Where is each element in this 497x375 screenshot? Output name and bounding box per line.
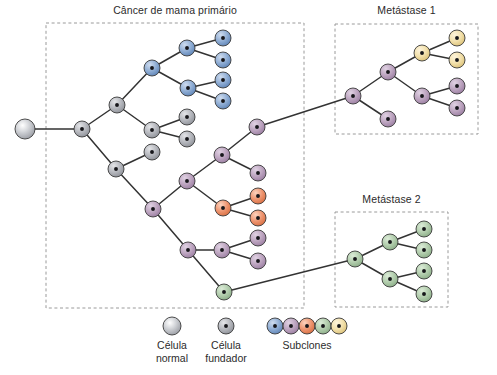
- nucleus-dot: [273, 324, 277, 328]
- nucleus-dot: [150, 150, 154, 154]
- cell-node-blue-b7: [215, 93, 231, 109]
- legend-swatch-founder-cell: [218, 318, 234, 334]
- nucleus-dot: [222, 290, 226, 294]
- nucleus-dot: [455, 106, 459, 110]
- nucleus-dot: [256, 259, 260, 263]
- cell-node-purple-p1: [145, 201, 161, 217]
- cell-node-blue-b5: [180, 80, 196, 96]
- cell-node-normal-normal: [15, 119, 35, 139]
- nucleus-dot: [255, 125, 259, 129]
- figure-canvas: Câncer de mama primário Metástase 1 Metá…: [0, 0, 497, 375]
- cell-nodes: [15, 30, 465, 302]
- cell-node-purple-m1i: [449, 100, 465, 116]
- cell-node-purple-p7: [214, 242, 230, 258]
- nucleus-dot: [386, 117, 390, 121]
- nucleus-dot: [256, 171, 260, 175]
- legend-swatch-subclone-orange: [299, 318, 315, 334]
- nucleus-dot: [289, 324, 293, 328]
- cell-node-purple-p5: [250, 165, 266, 181]
- cell-node-tan-m1e: [449, 30, 465, 46]
- nucleus-dot: [455, 36, 459, 40]
- nucleus-dot: [186, 86, 190, 90]
- nucleus-dot: [220, 153, 224, 157]
- cell-node-blue-b3: [215, 30, 231, 46]
- nucleus-dot: [256, 236, 260, 240]
- label-metastasis-2: Metástase 2: [335, 193, 448, 205]
- nucleus-dot: [185, 137, 189, 141]
- nucleus-dot: [422, 269, 426, 273]
- cell-node-green-m2e: [416, 242, 432, 258]
- nucleus-dot: [337, 324, 341, 328]
- nucleus-dot: [220, 248, 224, 252]
- nucleus-dot: [420, 51, 424, 55]
- edge-p4-m1a: [257, 96, 353, 127]
- nucleus-dot: [422, 227, 426, 231]
- cell-node-purple-p3: [214, 147, 230, 163]
- cell-node-founder-founder: [74, 121, 90, 137]
- nucleus-dot: [305, 324, 309, 328]
- cell-node-founder-g2: [144, 122, 160, 138]
- nucleus-dot: [115, 103, 119, 107]
- cell-node-green-m2c: [382, 271, 398, 287]
- legend-swatch-normal-cell: [163, 317, 181, 335]
- nucleus-dot: [256, 194, 260, 198]
- cell-node-purple-p2: [179, 173, 195, 189]
- legend-label-founder-cell: Célula fundador: [191, 339, 261, 364]
- nucleus-dot: [221, 58, 225, 62]
- legend-label-subclones: Subclones: [267, 339, 347, 352]
- nucleus-dot: [422, 248, 426, 252]
- cell-node-founder-g5: [108, 161, 124, 177]
- legend-swatch-subclone-blue: [267, 318, 283, 334]
- nucleus-dot: [80, 127, 84, 131]
- legend-swatch-subclone-tan: [331, 318, 347, 334]
- nucleus-dot: [221, 206, 225, 210]
- nucleus-dot: [185, 179, 189, 183]
- cell-node-founder-g4: [179, 131, 195, 147]
- nucleus-dot: [150, 66, 154, 70]
- cell-node-founder-g1: [109, 97, 125, 113]
- cell-node-orange-o1: [215, 200, 231, 216]
- cell-node-purple-m1g: [414, 88, 430, 104]
- label-primary-tumor: Câncer de mama primário: [0, 4, 350, 16]
- nucleus-dot: [221, 78, 225, 82]
- nucleus-dot: [256, 216, 260, 220]
- edge-gr0-m2a: [224, 259, 355, 292]
- cell-node-blue-b6: [215, 72, 231, 88]
- label-metastasis-1: Metástase 1: [335, 4, 478, 16]
- nucleus-dot: [151, 207, 155, 211]
- legend-swatch-subclone-purple: [283, 318, 299, 334]
- nucleus-dot: [386, 70, 390, 74]
- cell-node-green-m2f: [416, 263, 432, 279]
- nucleus-dot: [351, 94, 355, 98]
- cell-node-blue-b1: [144, 60, 160, 76]
- nucleus-dot: [455, 84, 459, 88]
- nucleus-dot: [353, 257, 357, 261]
- nucleus-dot: [185, 115, 189, 119]
- cell-node-tan-m1d: [414, 45, 430, 61]
- cell-node-purple-m1c: [380, 111, 396, 127]
- legend-swatch-subclone-green: [315, 318, 331, 334]
- cell-node-purple-p4: [249, 119, 265, 135]
- nucleus-dot: [420, 94, 424, 98]
- nucleus-dot: [150, 128, 154, 132]
- nucleus-dot: [185, 46, 189, 50]
- cell-node-orange-o2: [250, 188, 266, 204]
- nucleus-dot: [186, 248, 190, 252]
- cell-node-purple-p9: [250, 253, 266, 269]
- nucleus-dot: [422, 292, 426, 296]
- nucleus-dot: [388, 240, 392, 244]
- nucleus-dot: [114, 167, 118, 171]
- cell-node-founder-g3: [179, 109, 195, 125]
- cell-node-blue-b4: [215, 52, 231, 68]
- cell-node-purple-m1b: [380, 64, 396, 80]
- cell-node-purple-m1h: [449, 78, 465, 94]
- nucleus-dot: [455, 58, 459, 62]
- cell-node-founder-g6: [144, 144, 160, 160]
- cell-node-green-gr0: [216, 284, 232, 300]
- cell-node-green-m2g: [416, 286, 432, 302]
- cell-node-blue-b2: [179, 40, 195, 56]
- nucleus-dot: [321, 324, 325, 328]
- cell-node-purple-p8: [250, 230, 266, 246]
- nucleus-dot: [221, 99, 225, 103]
- nucleus-dot: [388, 277, 392, 281]
